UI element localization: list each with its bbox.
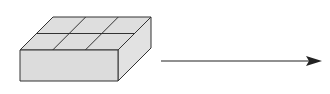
box-front-face bbox=[20, 50, 118, 81]
arrow bbox=[161, 56, 322, 66]
diagram-canvas bbox=[0, 0, 330, 94]
box bbox=[20, 17, 151, 81]
